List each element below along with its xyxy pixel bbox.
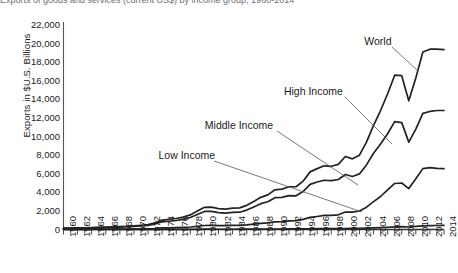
- series-label-high-income: High Income: [284, 86, 343, 97]
- series-label-middle-income: Middle Income: [205, 120, 273, 131]
- leader-line-middle-income: [277, 131, 358, 185]
- series-line-middle-income: [64, 168, 445, 230]
- leader-line-world: [392, 47, 418, 71]
- series-label-low-income: Low Income: [159, 150, 216, 161]
- series-label-world: World: [364, 36, 391, 47]
- leader-line-low-income: [214, 161, 362, 212]
